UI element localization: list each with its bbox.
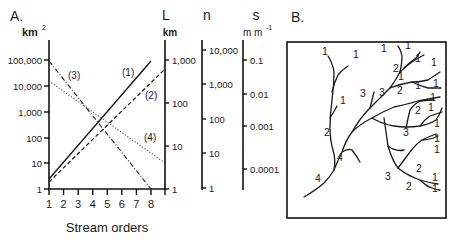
stream-order-label: 2 [397,84,403,96]
L-axis-title: L [162,7,170,23]
x-axis-tick-label: 3 [75,198,81,210]
x-axis-tick-label: 6 [119,198,125,210]
left-axis-tick-label: 100 [26,133,42,144]
series-4-label: (4) [144,132,156,143]
basin-frame [287,42,446,218]
x-axis-tick-label: 1 [46,198,52,210]
stream-order-label: 1 [415,52,421,64]
panel-a-label: A. [10,8,23,24]
stream-order-label: 2 [416,162,422,174]
s-axis-unit-sup: -1 [266,24,272,31]
stream-order-label: 1 [434,143,440,155]
L-axis-tick-label: 1,000 [172,55,196,66]
stream-order-label: 2 [406,180,412,192]
L-axis-tick-label: 1 [172,184,177,195]
stream-order-label: 1 [353,48,359,60]
n-axis-tick-label: 100 [209,114,225,125]
left-axis-unit: km [22,26,38,38]
panel-a: A. km 2 1101001,00010,000100,000 1234567… [8,7,279,235]
stream-order-label: 1 [415,79,421,91]
stream-order-label: 1 [428,101,434,113]
s-axis-title: s [253,7,260,23]
stream-order-label: 3 [385,170,391,182]
stream-network [304,46,442,197]
stream-order-label: 1 [398,70,404,82]
panel-b: B. [287,9,446,218]
stream-order-label: 1 [340,94,346,106]
n-axis-tick-label: 10 [209,148,220,159]
stream-order-label: 2 [415,104,421,116]
panel-b-label: B. [291,9,304,25]
series-1-label: (1) [122,67,134,78]
stream-order-label: 4 [337,151,343,163]
n-axis-tick-label: 1,000 [209,79,233,90]
left-axis-tick-label: 10,000 [13,81,42,92]
L-axis-tick-label: 10 [172,141,183,152]
x-axis-tick-label: 8 [148,198,154,210]
x-axis-label: Stream orders [66,220,149,235]
left-axis-tick-label: 1,000 [18,107,42,118]
x-axis-tick-label: 2 [61,198,67,210]
series-2-line [49,69,165,182]
left-axis-tick-label: 10 [31,158,42,169]
left-axis-unit-sup: 2 [42,24,46,31]
s-axis-tick-label: 0.1 [250,55,263,66]
figure: A. km 2 1101001,00010,000100,000 1234567… [0,0,450,243]
stream-order-label: 3 [360,87,366,99]
s-axis-tick-label: 0.001 [250,121,274,132]
left-axis-tick-label: 100,000 [8,55,42,66]
series-3-label: (3) [68,70,80,81]
series-2-label: (2) [145,90,157,101]
stream-order-label: 1 [322,45,328,57]
stream-order-label: 2 [324,126,330,138]
n-axis-tick-label: 1 [209,183,214,194]
x-axis-tick-label: 4 [90,198,96,210]
s-axis-ticks: 0.10.010.0010.0001 [243,55,279,175]
x-axis-tick-label: 5 [104,198,110,210]
stream-order-label: 1 [431,56,437,68]
series-3-line [49,61,151,189]
stream-order-label: 3 [379,86,385,98]
n-axis-ticks: 1101001,00010,000 [202,45,238,194]
left-axis-tick-label: 1 [37,184,42,195]
stream-order-label: 1 [405,39,411,51]
stream-order-label: 4 [315,172,321,184]
s-axis-tick-label: 0.0001 [250,164,279,175]
stream-order-label: 1 [434,117,440,129]
s-axis-tick-label: 0.01 [250,89,269,100]
stream-order-label: 1 [433,77,439,89]
series-1-line [49,61,151,179]
left-axis-ticks: 1101001,00010,000100,000 [8,55,49,195]
x-axis-ticks: 12345678 [46,189,165,210]
L-axis-ticks: 1101001,000 [165,55,196,195]
s-axis-unit: m m [243,27,262,38]
L-axis-tick-label: 100 [172,98,188,109]
n-axis-title: n [203,7,211,23]
n-axis-tick-label: 10,000 [209,45,238,56]
x-axis-tick-label: 7 [133,198,139,210]
stream-order-label: 1 [432,182,438,194]
stream-order-label: 1 [381,42,387,54]
stream-order-label: 3 [403,126,409,138]
L-axis-unit: km [163,27,178,38]
